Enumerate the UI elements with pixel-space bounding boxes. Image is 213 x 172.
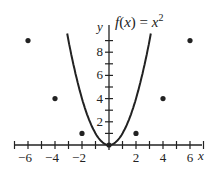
x-tick-label: −2 (72, 150, 86, 165)
data-point (79, 131, 84, 136)
y-tick-label: 8 (97, 44, 104, 59)
y-tick-label: 6 (97, 67, 104, 82)
x-axis-label: x (197, 148, 204, 163)
data-point (106, 142, 111, 147)
data-point (52, 96, 57, 101)
chart-title: f(x) = x2 (115, 12, 163, 31)
data-point (187, 38, 192, 43)
y-axis-label: y (95, 19, 103, 34)
x-tick-label: −4 (45, 150, 59, 165)
tick-labels: −6−4−22462468 (18, 44, 194, 165)
x-tick-label: 6 (187, 150, 194, 165)
function-chart: −6−4−22462468 y x f(x) = x2 (0, 0, 213, 172)
x-tick-label: −6 (18, 150, 32, 165)
data-point (133, 131, 138, 136)
y-tick-label: 2 (97, 114, 104, 129)
data-point (25, 38, 30, 43)
x-tick-label: 2 (133, 150, 140, 165)
y-tick-label: 4 (97, 91, 104, 106)
data-point (160, 96, 165, 101)
x-tick-label: 4 (160, 150, 167, 165)
